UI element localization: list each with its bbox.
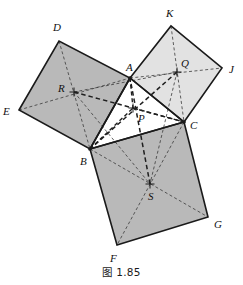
label-S: S xyxy=(148,190,154,202)
label-A: A xyxy=(125,61,133,73)
vertex-dot-A xyxy=(128,76,132,80)
label-B: B xyxy=(80,155,87,167)
label-G: G xyxy=(214,218,222,230)
figure-container: A B C D E F G J K P Q R S 图 1.85 xyxy=(0,0,243,285)
label-E: E xyxy=(2,105,10,117)
label-Q: Q xyxy=(181,57,189,69)
label-D: D xyxy=(52,21,61,33)
label-R: R xyxy=(57,82,65,94)
geometry-diagram: A B C D E F G J K P Q R S xyxy=(0,0,243,285)
label-F: F xyxy=(109,252,117,264)
vertex-dot-C xyxy=(182,120,186,124)
vertex-dot-B xyxy=(88,147,92,151)
label-P: P xyxy=(137,112,145,124)
figure-caption: 图 1.85 xyxy=(0,264,243,279)
label-K: K xyxy=(165,7,174,19)
label-J: J xyxy=(229,63,235,75)
label-C: C xyxy=(190,119,198,131)
